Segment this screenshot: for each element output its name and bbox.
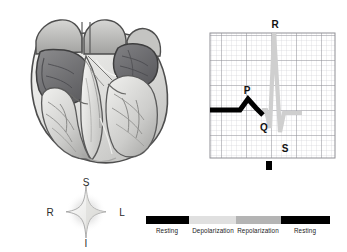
figure-root: R P Q S xyxy=(0,0,347,252)
legend-label-resting-1: Resting xyxy=(156,227,178,234)
heart-illustration xyxy=(8,8,180,176)
compass-right: R xyxy=(46,207,53,218)
legend-label-resting-2: Resting xyxy=(294,227,316,234)
left-ventricle-cavity xyxy=(106,76,157,157)
phase-legend: Resting Depolarization Repolarization Re… xyxy=(146,216,330,244)
p-wave-label: P xyxy=(244,85,251,96)
compass-inferior: I xyxy=(85,238,88,248)
left-ventricle-group xyxy=(106,76,157,157)
compass-left: L xyxy=(119,207,125,218)
cursor-marker xyxy=(266,161,272,170)
q-wave-label: Q xyxy=(260,122,268,133)
legend-segment-resting-1 xyxy=(146,216,189,224)
s-wave-label: S xyxy=(282,143,289,154)
compass-superior: S xyxy=(83,177,90,188)
phase-legend-labels: Resting Depolarization Repolarization Re… xyxy=(146,227,330,241)
r-wave-label: R xyxy=(271,19,279,30)
legend-segment-resting-2 xyxy=(281,216,330,224)
legend-segment-repolarization xyxy=(236,216,281,224)
legend-label-repolarization: Repolarization xyxy=(237,227,279,234)
phase-legend-bar xyxy=(146,216,330,224)
ecg-chart: R P Q S xyxy=(196,10,344,175)
legend-segment-depolarization xyxy=(189,216,236,224)
legend-label-depolarization: Depolarization xyxy=(192,227,234,234)
orientation-compass: S L I R xyxy=(38,176,134,248)
